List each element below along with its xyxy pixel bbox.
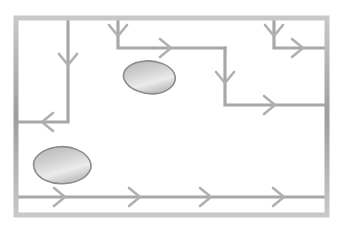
lower-obstacle [34,147,92,184]
figure-root [0,0,346,232]
flow-network-diagram [0,0,346,232]
